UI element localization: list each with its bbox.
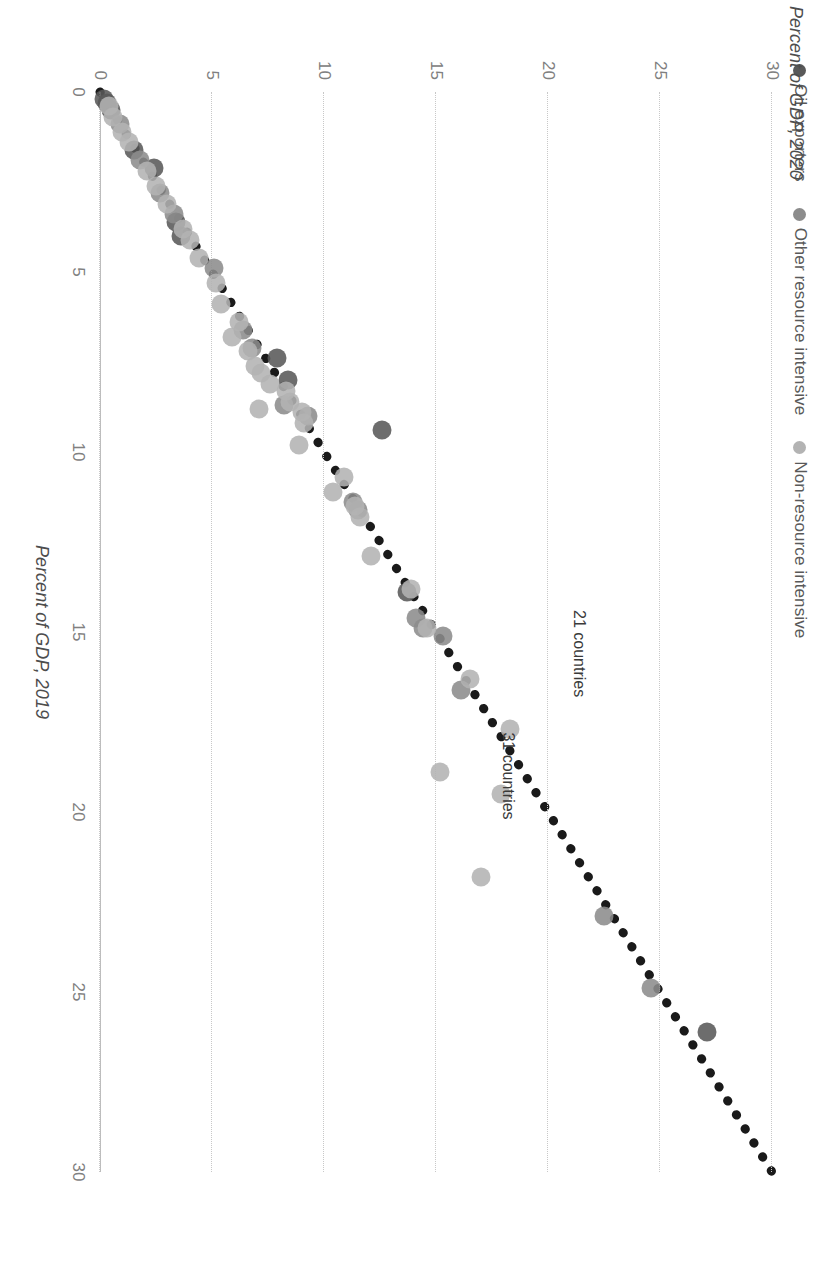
scatter-point[interactable] — [418, 619, 437, 638]
y-gridline — [211, 92, 212, 1172]
scatter-point[interactable] — [642, 979, 661, 998]
y-axis-tick-label: 10 — [314, 61, 334, 80]
chart-annotation: 31 countries — [499, 732, 517, 819]
plot-area: Percent of GDP, 2020 Percent of GDP, 201… — [100, 92, 772, 1172]
x-axis-label: Percent of GDP, 2019 — [31, 545, 52, 719]
y-gridline — [323, 92, 324, 1172]
x-axis-tick-label: 30 — [68, 1163, 88, 1182]
scatter-point[interactable] — [698, 1022, 717, 1041]
scatter-point[interactable] — [207, 273, 226, 292]
scatter-point[interactable] — [189, 248, 208, 267]
y-gridline — [659, 92, 660, 1172]
legend-marker-other-icon — [794, 208, 807, 221]
y-axis-tick-label: 25 — [650, 61, 670, 80]
legend-item-other[interactable]: Other resource intensive — [790, 208, 810, 416]
scatter-point[interactable] — [99, 97, 118, 116]
figure-page: Oil exportersOther resource intensiveNon… — [0, 0, 820, 1288]
legend-item-nonres[interactable]: Non-resource intensive — [790, 441, 810, 638]
legend-label: Non-resource intensive — [790, 461, 810, 638]
chart-annotation: 21 countries — [570, 610, 588, 697]
x-axis-line — [100, 92, 101, 1172]
legend-marker-nonres-icon — [794, 441, 807, 454]
scatter-point[interactable] — [362, 547, 381, 566]
scatter-point[interactable] — [431, 763, 450, 782]
scatter-point[interactable] — [138, 162, 157, 181]
scatter-point[interactable] — [402, 579, 421, 598]
y-axis-tick-label: 30 — [762, 61, 782, 80]
x-axis-tick-label: 25 — [68, 983, 88, 1002]
scatter-point[interactable] — [335, 468, 354, 487]
scatter-point[interactable] — [471, 867, 490, 886]
scatter-point[interactable] — [460, 669, 479, 688]
scatter-point[interactable] — [346, 497, 365, 516]
y-axis-tick-label: 0 — [90, 71, 110, 80]
y-axis-tick-label: 15 — [426, 61, 446, 80]
x-axis-tick-label: 0 — [68, 87, 88, 96]
scatter-point[interactable] — [173, 219, 192, 238]
scatter-figure: Oil exportersOther resource intensiveNon… — [0, 0, 820, 1288]
scatter-point[interactable] — [158, 194, 177, 213]
y-axis-tick-label: 5 — [202, 71, 222, 80]
scatter-point[interactable] — [250, 399, 269, 418]
scatter-point[interactable] — [290, 435, 309, 454]
rotated-figure-container: Oil exportersOther resource intensiveNon… — [0, 0, 820, 1288]
x-axis-tick-label: 10 — [68, 443, 88, 462]
y-gridline — [547, 92, 548, 1172]
y-axis-label: Percent of GDP, 2020 — [785, 6, 806, 180]
scatter-point[interactable] — [229, 313, 248, 332]
x-axis-tick-label: 20 — [68, 803, 88, 822]
y-axis-tick-label: 20 — [538, 61, 558, 80]
scatter-point[interactable] — [373, 421, 392, 440]
scatter-point[interactable] — [238, 342, 257, 361]
x-axis-tick-label: 15 — [68, 623, 88, 642]
scatter-point[interactable] — [267, 349, 286, 368]
scatter-point[interactable] — [595, 907, 614, 926]
scatter-point[interactable] — [211, 295, 230, 314]
legend-label: Other resource intensive — [790, 228, 810, 416]
y-gridline — [771, 92, 772, 1172]
x-axis-tick-label: 5 — [68, 267, 88, 276]
